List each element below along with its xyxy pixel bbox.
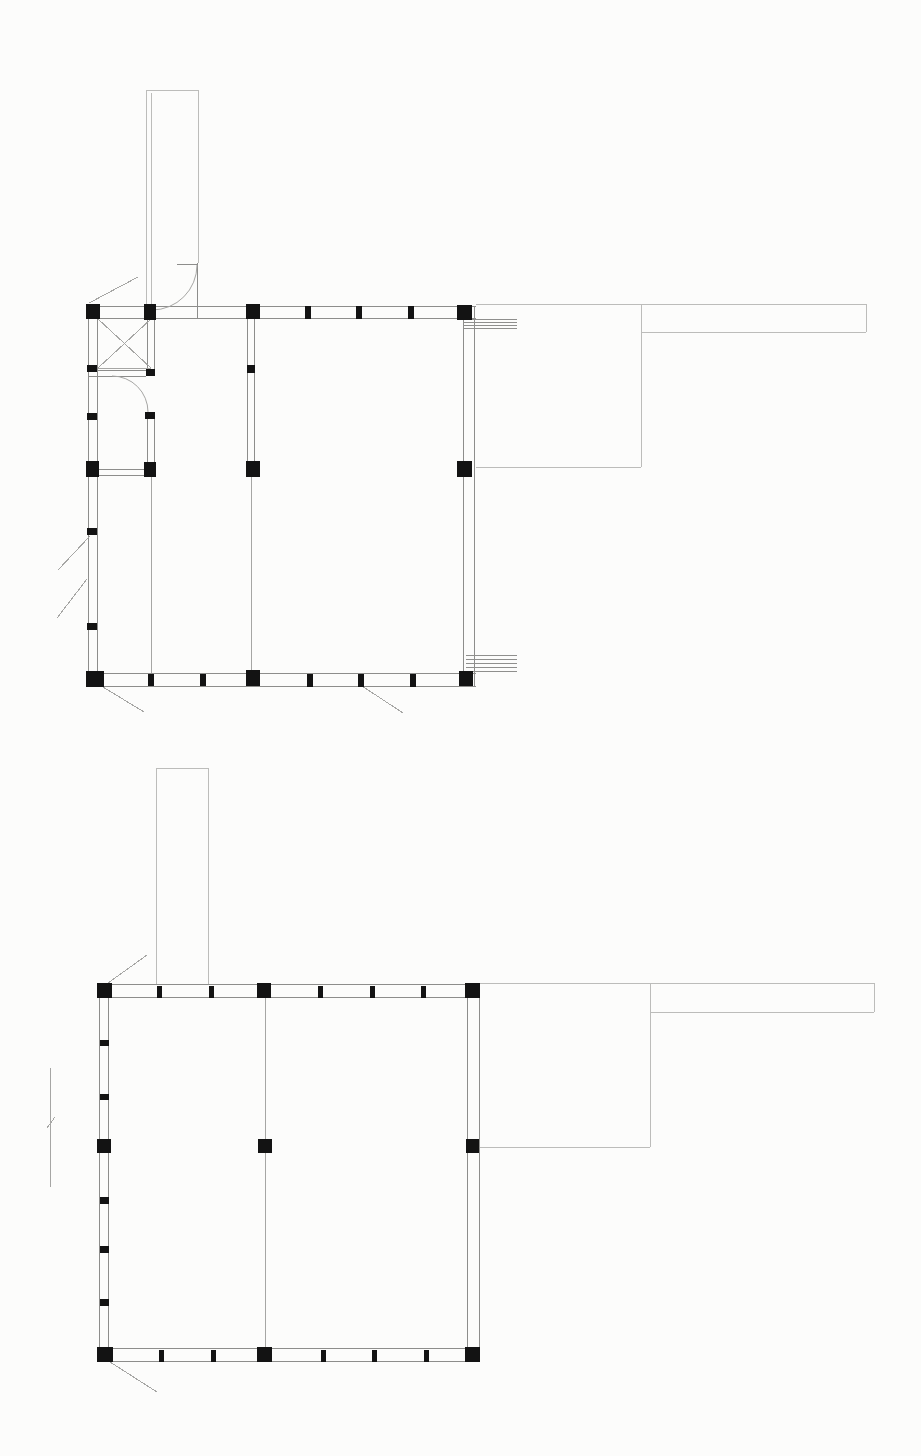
column	[86, 671, 104, 687]
railing-diagonal	[110, 1362, 157, 1392]
pier-tick	[100, 1094, 109, 1100]
column	[258, 1139, 272, 1153]
floorplan-canvas	[0, 0, 921, 1456]
column	[246, 670, 260, 686]
column	[97, 1139, 111, 1153]
pier-tick	[146, 369, 155, 376]
column	[465, 1347, 480, 1362]
pier-tick	[200, 674, 206, 686]
column	[144, 304, 156, 320]
pier-tick	[305, 306, 311, 319]
railing-diagonal	[103, 687, 144, 712]
drawing-sheet	[0, 0, 921, 1456]
pier-tick	[100, 1040, 109, 1046]
column	[466, 1139, 479, 1153]
pier-tick	[408, 306, 414, 319]
pier-tick	[211, 1350, 216, 1362]
column	[86, 461, 99, 477]
pier-tick	[100, 1246, 109, 1253]
railing-diagonal	[58, 536, 90, 570]
pier-tick	[372, 1350, 377, 1362]
pier-tick	[159, 1350, 164, 1362]
column	[465, 983, 480, 998]
upper-floor-plan	[57, 90, 866, 713]
door-swing-arc	[152, 265, 197, 310]
railing-diagonal	[89, 277, 138, 303]
pier-tick	[424, 1350, 429, 1362]
pier-tick	[100, 1197, 109, 1204]
column	[257, 1347, 272, 1362]
pier-tick	[157, 986, 162, 998]
pier-tick	[87, 528, 97, 535]
column	[97, 983, 112, 998]
column	[144, 462, 156, 477]
column	[457, 305, 472, 320]
column	[246, 304, 260, 319]
column	[246, 461, 260, 477]
railing-diagonal	[108, 955, 147, 983]
pier-tick	[358, 674, 364, 687]
column	[86, 304, 100, 319]
site-tick	[47, 1117, 55, 1128]
pier-tick	[87, 365, 97, 372]
pier-tick	[318, 986, 323, 998]
column	[97, 1347, 113, 1362]
railing-diagonal	[57, 579, 87, 618]
pier-tick	[356, 306, 362, 319]
pier-tick	[209, 986, 214, 998]
column	[459, 671, 473, 686]
pier-tick	[148, 674, 154, 686]
door-leaf-line	[362, 686, 403, 713]
pier-tick	[370, 986, 375, 998]
pier-tick	[410, 674, 416, 687]
lower-floor-plan	[47, 768, 874, 1392]
pier-tick	[145, 412, 155, 419]
door-swing-arc	[112, 376, 148, 412]
pier-tick	[321, 1350, 326, 1362]
pier-tick	[421, 986, 426, 998]
pier-tick	[87, 413, 97, 420]
pier-tick	[247, 365, 255, 373]
pier-tick	[100, 1299, 109, 1306]
pier-tick	[87, 623, 97, 630]
pier-tick	[307, 674, 313, 687]
column	[257, 983, 271, 998]
column	[457, 461, 472, 477]
